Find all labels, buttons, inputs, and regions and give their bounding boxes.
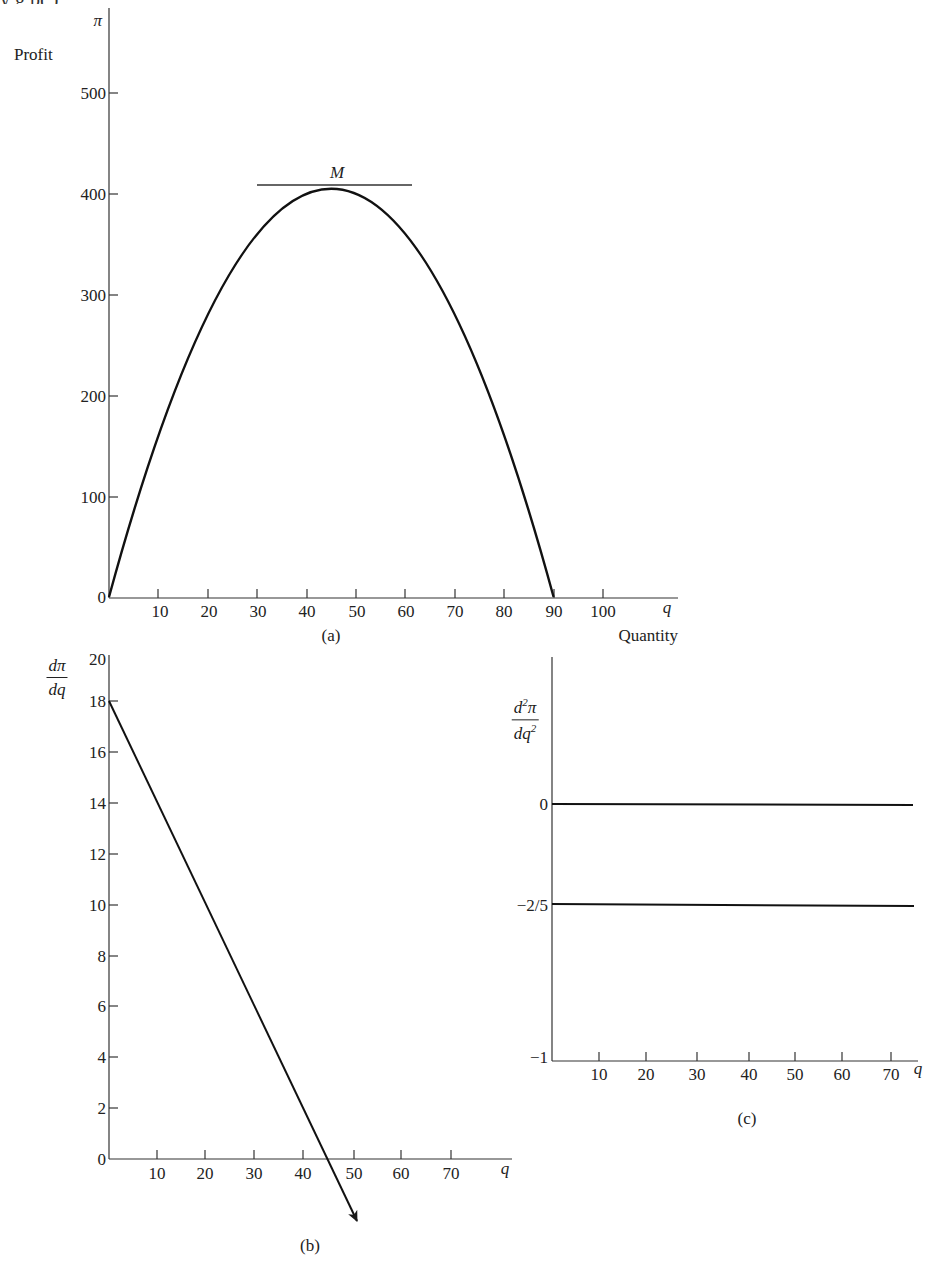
chart-a-xtick-40: 40 xyxy=(299,603,316,620)
chart-c-xtick-40: 40 xyxy=(741,1066,758,1083)
chart-b-xtick-40: 40 xyxy=(295,1165,312,1182)
chart-b-ylabel-den: dq xyxy=(46,678,67,700)
chart-c-xtick-60: 60 xyxy=(834,1066,851,1083)
chart-c-ylabel-d: d xyxy=(514,698,523,717)
chart-b xyxy=(109,655,512,1221)
zero-line xyxy=(552,804,913,805)
chart-b-ytick-6: 6 xyxy=(98,998,107,1015)
chart-a-xtick-70: 70 xyxy=(447,603,464,620)
chart-c-ylabel-pi: π xyxy=(528,698,537,717)
chart-c xyxy=(552,657,918,1061)
chart-c-xtick-30: 30 xyxy=(689,1066,706,1083)
chart-a-xtick-30: 30 xyxy=(250,603,267,620)
chart-c-xtick-70: 70 xyxy=(883,1066,900,1083)
chart-a-ytick-0: 0 xyxy=(98,589,107,606)
chart-b-xtick-60: 60 xyxy=(393,1165,410,1182)
chart-a-caption: (a) xyxy=(322,627,341,644)
chart-a-xtick-90: 90 xyxy=(546,603,563,620)
chart-b-ytick-4: 4 xyxy=(98,1049,107,1066)
chart-a-ytick-400: 400 xyxy=(81,186,107,203)
chart-a-xtick-100: 100 xyxy=(590,603,616,620)
chart-b-ytick-20: 20 xyxy=(89,651,106,668)
chart-a-xtick-50: 50 xyxy=(349,603,366,620)
chart-b-ytick-2: 2 xyxy=(98,1100,107,1117)
chart-a-ytick-200: 200 xyxy=(81,388,107,405)
chart-c-xtick-20: 20 xyxy=(638,1066,655,1083)
chart-b-ytick-14: 14 xyxy=(89,795,106,812)
chart-a-xtick-10: 10 xyxy=(152,603,169,620)
chart-c-ylabel: d2π dq2 xyxy=(512,696,539,743)
chart-a-xtick-80: 80 xyxy=(496,603,513,620)
chart-b-x-ticks xyxy=(157,1150,451,1159)
chart-a-y-ticks xyxy=(109,93,118,497)
profit-curve xyxy=(109,189,554,597)
chart-a-ytick-100: 100 xyxy=(81,489,107,506)
chart-b-ytick-18: 18 xyxy=(89,693,106,710)
chart-c-ytick-neg-1: −1 xyxy=(530,1049,548,1066)
chart-c-xtick-10: 10 xyxy=(591,1066,608,1083)
chart-b-ytick-12: 12 xyxy=(89,846,106,863)
chart-a-quantity-label: Quantity xyxy=(619,627,679,644)
chart-c-xtick-50: 50 xyxy=(787,1066,804,1083)
chart-b-ylabel: dπ dq xyxy=(46,656,67,700)
chart-b-ytick-10: 10 xyxy=(89,897,106,914)
chart-c-ytick-0: 0 xyxy=(540,796,549,813)
chart-b-ytick-16: 16 xyxy=(89,744,106,761)
chart-b-xtick-20: 20 xyxy=(197,1165,214,1182)
chart-a-profit-label: Profit xyxy=(14,46,53,63)
chart-c-ytick-neg-2-5: −2/5 xyxy=(517,897,548,914)
chart-b-xtick-50: 50 xyxy=(346,1165,363,1182)
chart-b-ylabel-num: dπ xyxy=(46,656,67,678)
chart-c-caption: (c) xyxy=(738,1110,757,1127)
chart-a-xtick-60: 60 xyxy=(398,603,415,620)
chart-b-y-ticks xyxy=(109,701,118,1108)
chart-a-ytick-300: 300 xyxy=(81,287,107,304)
chart-b-q-symbol: q xyxy=(501,1160,510,1177)
chart-a-pi-symbol: π xyxy=(93,12,102,29)
chart-a-q-symbol: q xyxy=(663,599,672,616)
chart-a-x-ticks xyxy=(158,589,603,598)
chart-a-ytick-500: 500 xyxy=(81,85,107,102)
chart-b-ytick-8: 8 xyxy=(98,948,107,965)
chart-b-caption: (b) xyxy=(300,1237,320,1254)
chart-a-max-label: M xyxy=(330,164,344,181)
chart-c-ylabel-dq: dq xyxy=(514,724,531,743)
marginal-profit-line xyxy=(109,701,357,1221)
chart-a xyxy=(109,8,678,598)
chart-a-xtick-20: 20 xyxy=(201,603,218,620)
chart-b-xtick-30: 30 xyxy=(246,1165,263,1182)
chart-b-xtick-10: 10 xyxy=(149,1165,166,1182)
chart-c-x-ticks xyxy=(599,1052,891,1061)
chart-c-ylabel-den-sup: 2 xyxy=(531,722,537,734)
chart-b-ytick-0: 0 xyxy=(98,1151,107,1168)
chart-b-xtick-70: 70 xyxy=(443,1165,460,1182)
chart-c-q-symbol: q xyxy=(914,1060,923,1077)
figure-canvas xyxy=(0,0,950,1283)
second-derivative-line xyxy=(552,904,914,906)
